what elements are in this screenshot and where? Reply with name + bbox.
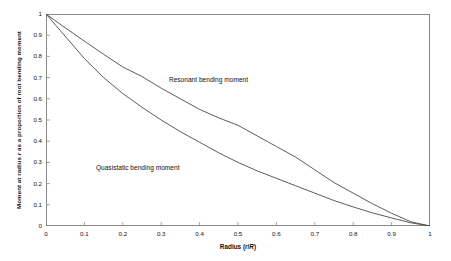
annotation-quasistatic-bending-moment: Quasistatic bending moment: [96, 164, 180, 171]
y-axis-title: Moment at radius r as a proportion of ro…: [12, 14, 26, 226]
x-tick-label: 0: [34, 230, 58, 237]
chart-figure: Resonant bending moment Quasistatic bend…: [0, 0, 451, 261]
annotation-resonant-bending-moment: Resonant bending moment: [169, 76, 248, 83]
x-tick-label: 0.1: [72, 230, 96, 237]
x-tick-label: 0.4: [188, 230, 212, 237]
y-tick-marks: [46, 14, 50, 226]
x-tick-marks: [46, 222, 430, 226]
x-tick-label: 0.3: [149, 230, 173, 237]
curves-layer: [46, 14, 430, 226]
x-tick-label: 0.6: [264, 230, 288, 237]
x-tick-label: 0.7: [303, 230, 327, 237]
x-tick-label: 0.9: [380, 230, 404, 237]
curve-resonant-bending-moment: [46, 14, 430, 226]
x-tick-label: 0.5: [226, 230, 250, 237]
x-tick-label: 0.8: [341, 230, 365, 237]
x-tick-label: 0.2: [111, 230, 135, 237]
x-axis-title: Radius (r/R): [46, 243, 430, 250]
x-tick-label: 1: [418, 230, 442, 237]
curve-quasistatic-bending-moment: [46, 14, 430, 226]
